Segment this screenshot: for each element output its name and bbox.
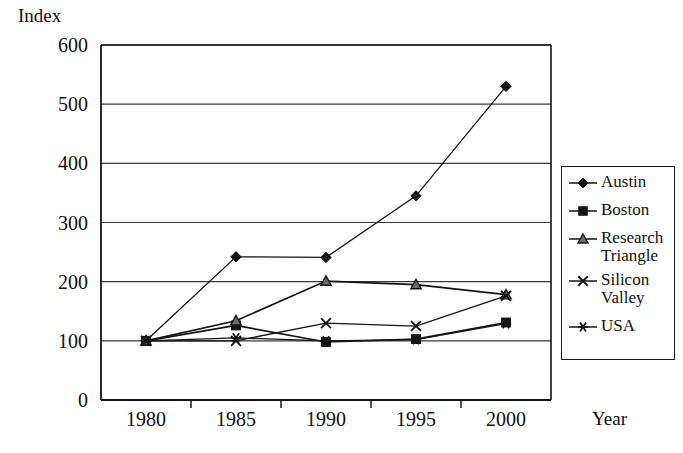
series-line-0 bbox=[146, 86, 506, 340]
marker-legend-4 bbox=[578, 323, 588, 332]
legend-label: Boston bbox=[601, 201, 649, 219]
legend-marker-diamond-icon bbox=[568, 174, 598, 192]
chart-legend: AustinBostonResearch TriangleSilicon Val… bbox=[561, 166, 675, 360]
marker-0-2 bbox=[321, 252, 331, 262]
legend-marker-triangle-icon bbox=[568, 230, 598, 248]
legend-item: Research Triangle bbox=[568, 229, 663, 265]
legend-label: Silicon Valley bbox=[601, 271, 649, 307]
line-chart-figure: Index Year 0100200300400500600 198019851… bbox=[0, 0, 683, 453]
legend-label: Austin bbox=[601, 173, 646, 191]
legend-marker-asterisk-icon bbox=[568, 318, 598, 336]
legend-label: Research Triangle bbox=[601, 229, 663, 265]
legend-marker-square-icon bbox=[568, 202, 598, 220]
legend-label: USA bbox=[601, 317, 635, 335]
legend-item: Silicon Valley bbox=[568, 271, 649, 307]
legend-item: Austin bbox=[568, 173, 646, 192]
legend-item: USA bbox=[568, 317, 635, 336]
legend-marker-cross-icon bbox=[568, 272, 598, 290]
legend-item: Boston bbox=[568, 201, 649, 220]
series-line-3 bbox=[146, 296, 506, 341]
marker-legend-1 bbox=[579, 207, 588, 216]
marker-2-1 bbox=[231, 316, 241, 325]
marker-legend-0 bbox=[578, 178, 588, 188]
